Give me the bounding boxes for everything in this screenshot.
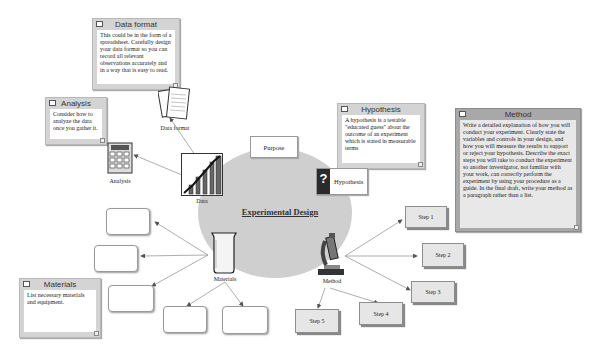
calculator-icon[interactable] xyxy=(107,142,133,174)
note-body: List necessary materials and equipment. xyxy=(24,290,96,332)
note-title: Data format xyxy=(115,20,157,29)
note-title: Hypothesis xyxy=(361,105,401,114)
note-collapse-icon[interactable] xyxy=(341,106,348,112)
data-format-label: Data format xyxy=(155,125,195,131)
hypothesis-node[interactable]: ? Hypothesis xyxy=(316,168,368,195)
question-mark-icon: ? xyxy=(317,169,330,194)
material-box-4[interactable] xyxy=(163,306,207,333)
resize-handle-icon[interactable] xyxy=(574,225,579,230)
note-collapse-icon[interactable] xyxy=(96,21,103,27)
step-1-node[interactable]: Step 1 xyxy=(405,206,447,228)
diagram-title[interactable]: Experimental Design xyxy=(225,207,335,217)
method-label: Method xyxy=(312,278,352,284)
note-title: Analysis xyxy=(61,99,91,108)
material-box-2[interactable] xyxy=(94,245,138,272)
note-title: Materials xyxy=(44,280,76,289)
bar-chart-icon[interactable] xyxy=(181,153,223,196)
note-hypothesis[interactable]: Hypothesis A hypothesis is a testable "e… xyxy=(337,103,425,169)
step-3-node[interactable]: Step 3 xyxy=(411,281,455,303)
note-title: Method xyxy=(505,110,532,119)
papers-icon[interactable] xyxy=(158,86,190,124)
resize-handle-icon[interactable] xyxy=(418,162,423,167)
material-box-5[interactable] xyxy=(222,306,268,334)
step-2-node[interactable]: Step 2 xyxy=(422,243,464,267)
note-materials[interactable]: Materials List necessary materials and e… xyxy=(19,278,101,338)
resize-handle-icon[interactable] xyxy=(100,138,105,143)
materials-label: Materials xyxy=(205,276,245,282)
note-method[interactable]: Method Write a detailed explanation of h… xyxy=(455,108,581,232)
data-label: Data xyxy=(185,198,219,204)
microscope-icon[interactable] xyxy=(316,233,346,277)
note-body: This could be in the form of a spreadshe… xyxy=(97,30,175,84)
note-body: Write a detailed explanation of how you … xyxy=(460,120,576,228)
beaker-icon[interactable] xyxy=(209,230,239,274)
note-body: Consider how to analyze the data once yo… xyxy=(50,109,102,139)
note-collapse-icon[interactable] xyxy=(23,281,30,287)
note-data-format[interactable]: Data format This could be in the form of… xyxy=(92,18,180,90)
note-collapse-icon[interactable] xyxy=(459,111,466,117)
purpose-node[interactable]: Purpose xyxy=(250,136,298,158)
note-body: A hypothesis is a testable "educated gue… xyxy=(342,115,420,163)
hypothesis-label: Hypothesis xyxy=(334,178,363,185)
note-collapse-icon[interactable] xyxy=(49,100,56,106)
material-box-1[interactable] xyxy=(106,208,150,235)
step-4-node[interactable]: Step 4 xyxy=(359,302,403,325)
step-5-node[interactable]: Step 5 xyxy=(295,309,339,333)
note-analysis[interactable]: Analysis Consider how to analyze the dat… xyxy=(45,97,107,145)
analysis-label: Analysis xyxy=(100,178,140,184)
resize-handle-icon[interactable] xyxy=(94,331,99,336)
material-box-3[interactable] xyxy=(108,285,154,312)
